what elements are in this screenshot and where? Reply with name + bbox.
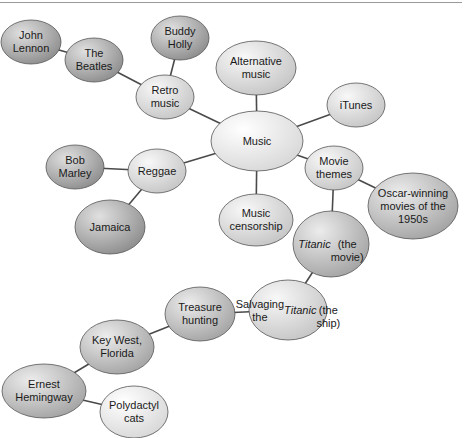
- node-label-music-censorship: Music censorship: [219, 207, 293, 233]
- node-label-movie-themes: Movie themes: [305, 155, 363, 181]
- node-label-oscar-winning: Oscar-winning movies of the 1950s: [368, 187, 458, 226]
- node-label-reggae: Reggae: [128, 165, 186, 178]
- node-label-the-beatles: The Beatles: [65, 47, 123, 73]
- node-label-key-west: Key West, Florida: [80, 334, 154, 360]
- node-label-alternative-music: Alternative music: [216, 55, 296, 81]
- node-label-polydactyl-cats: Polydactyl cats: [100, 399, 168, 425]
- node-label-itunes: iTunes: [327, 99, 385, 112]
- node-label-ernest-hemingway: Ernest Hemingway: [2, 378, 86, 404]
- node-label-treasure-hunting: Treasure hunting: [165, 301, 235, 327]
- node-label-jamaica: Jamaica: [75, 221, 145, 234]
- node-label-retro-music: Retro music: [136, 84, 194, 110]
- node-label-buddy-holly: Buddy Holly: [151, 25, 209, 51]
- node-label-salvaging: Salvagingthe Titanic(the ship): [249, 291, 327, 330]
- node-label-titanic-movie: Titanic(themovie): [293, 225, 369, 264]
- node-label-bob-marley: Bob Marley: [46, 154, 104, 180]
- node-label-john-lennon: John Lennon: [1, 29, 61, 55]
- node-label-music: Music: [211, 135, 303, 148]
